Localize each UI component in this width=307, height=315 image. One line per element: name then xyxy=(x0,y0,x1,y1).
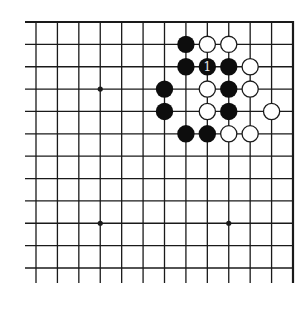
black-stone-icon xyxy=(177,58,194,75)
white-stone-icon xyxy=(242,126,258,142)
black-stone-icon xyxy=(220,103,237,120)
white-stone-icon xyxy=(242,81,258,97)
black-stone: 1 xyxy=(199,58,216,75)
move-number-label: 1 xyxy=(204,60,212,74)
star-point-icon xyxy=(98,221,103,226)
white-stone-icon xyxy=(242,59,258,75)
white-stone-icon xyxy=(199,81,215,97)
white-stone-icon xyxy=(221,36,237,52)
white-stone xyxy=(242,126,258,142)
go-board-diagram: 1 xyxy=(0,0,307,315)
white-stone xyxy=(242,59,258,75)
black-stone-icon xyxy=(220,80,237,97)
black-stone xyxy=(220,80,237,97)
white-stone-icon xyxy=(199,36,215,52)
white-stone-icon xyxy=(199,103,215,119)
white-stone xyxy=(221,126,237,142)
black-stone xyxy=(156,103,173,120)
black-stone xyxy=(177,125,194,142)
black-stone-icon xyxy=(220,58,237,75)
board-canvas: 1 xyxy=(0,0,307,315)
black-stone-icon xyxy=(177,125,194,142)
white-stone xyxy=(242,81,258,97)
black-stone xyxy=(177,36,194,53)
white-stone xyxy=(199,81,215,97)
star-point-icon xyxy=(226,221,231,226)
black-stone xyxy=(177,58,194,75)
black-stone-icon xyxy=(156,103,173,120)
black-stone xyxy=(156,80,173,97)
white-stone xyxy=(263,103,279,119)
black-stone-icon xyxy=(177,36,194,53)
star-point-icon xyxy=(98,86,103,91)
black-stone-icon xyxy=(199,125,216,142)
black-stone-icon xyxy=(156,80,173,97)
white-stone xyxy=(221,36,237,52)
black-stone xyxy=(220,103,237,120)
white-stone-icon xyxy=(221,126,237,142)
black-stone xyxy=(199,125,216,142)
white-stone xyxy=(199,36,215,52)
white-stone xyxy=(199,103,215,119)
white-stone-icon xyxy=(263,103,279,119)
black-stone xyxy=(220,58,237,75)
